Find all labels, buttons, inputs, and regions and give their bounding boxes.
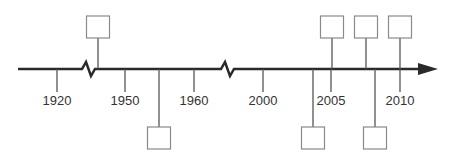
event-below-0 [148,69,171,149]
event-above-1 [321,16,344,69]
tick-1920: 1920 [43,69,72,108]
tick-2010: 2010 [386,69,415,108]
tick-label: 1920 [43,93,72,108]
tick-label: 2005 [317,93,346,108]
axis-break-icon [221,61,235,77]
event-below-2 [364,69,387,149]
event-box [148,127,171,149]
tick-label: 2010 [386,93,415,108]
event-above-2 [355,16,378,69]
tick-2005: 2005 [317,69,346,108]
axis-line [18,62,418,76]
tick-1950: 1950 [111,69,140,108]
tick-label: 1950 [111,93,140,108]
tick-label: 2000 [249,93,278,108]
event-below-1 [302,69,325,149]
event-box [321,16,344,38]
event-above-3 [389,16,412,69]
tick-2000: 2000 [249,69,278,108]
timeline-diagram: 192019501960200020052010 [0,0,455,161]
event-box [302,127,325,149]
tick-1960: 1960 [180,69,209,108]
event-box [389,16,412,38]
event-box [87,16,110,38]
event-markers [87,16,412,149]
axis-break-icon [82,61,96,77]
tick-label: 1960 [180,93,209,108]
event-box [355,16,378,38]
arrowhead-icon [418,63,438,75]
event-box [364,127,387,149]
